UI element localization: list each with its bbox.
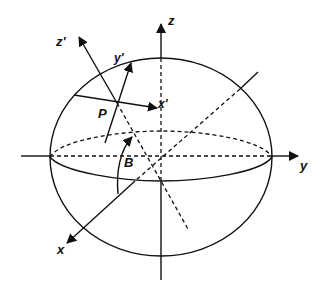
angle-b-label: B <box>124 155 133 170</box>
y-prime-label: y' <box>113 51 125 65</box>
diagonal-axis-upper-stub <box>240 72 258 89</box>
x-prime-axis <box>74 95 157 108</box>
x-axis-arrow <box>67 181 135 243</box>
ellipsoid-diagram: y z x z' y' x' P B <box>0 0 320 293</box>
z-prime-axis <box>79 37 117 103</box>
z-axis-label: z <box>167 13 175 28</box>
x-axis-label: x <box>56 242 65 257</box>
y-axis-label: y <box>299 158 308 173</box>
diagonal-axis-dashed <box>135 89 240 181</box>
point-p-label: P <box>98 106 107 121</box>
z-prime-label: z' <box>55 34 67 49</box>
x-prime-label: x' <box>157 97 169 111</box>
